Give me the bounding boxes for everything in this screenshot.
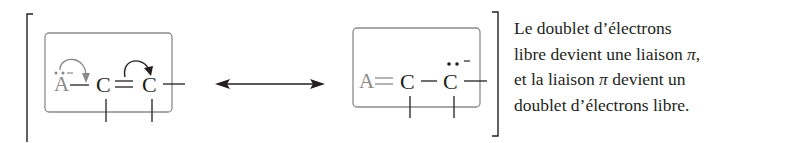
caption-line-2-comma: , — [696, 44, 700, 64]
caption-line-3: et la liaison π devient un — [514, 67, 784, 93]
right-structure: A C C — [359, 61, 487, 118]
pi-symbol: π — [599, 69, 608, 89]
left-bracket — [27, 14, 33, 142]
caption-line-3-text: et la liaison — [514, 69, 599, 89]
caption-line-3-end: devient un — [608, 69, 686, 89]
left-lone-pair-dot-1 — [55, 72, 58, 75]
right-lone-pair-dot-1 — [447, 62, 451, 66]
left-atom-c2: C — [142, 72, 157, 97]
pi-symbol: π — [687, 44, 696, 64]
right-atom-c1: C — [400, 69, 415, 94]
resonance-double-arrow-icon — [215, 79, 325, 89]
caption-line-1: Le doublet d’électrons — [514, 16, 784, 42]
caption-line-2-text: libre devient une liaison — [514, 44, 687, 64]
right-atom-c2: C — [443, 69, 458, 94]
curved-arrow-lone-pair-head-icon — [82, 73, 90, 83]
caption: Le doublet d’électrons libre devient une… — [514, 16, 784, 118]
right-lone-pair-dot-2 — [455, 62, 459, 66]
left-atom-c1: C — [96, 72, 111, 97]
caption-line-2: libre devient une liaison π, — [514, 42, 784, 68]
right-atom-a: A — [359, 69, 375, 93]
right-bracket — [492, 12, 498, 136]
caption-line-4: doublet d’électrons libre. — [514, 93, 784, 119]
left-atom-a: A — [54, 72, 70, 96]
right-structure-box — [353, 28, 480, 107]
left-lone-pair-dot-2 — [62, 72, 65, 75]
